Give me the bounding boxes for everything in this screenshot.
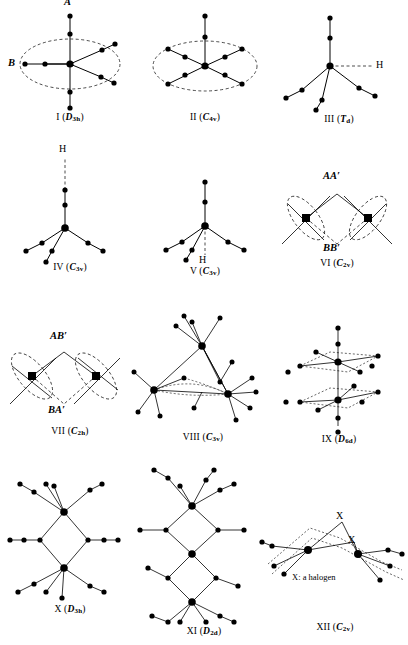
structure-V-diagram: [140, 160, 270, 260]
structure-VII: AB′ BA′ VII (C2h): [2, 318, 138, 443]
structure-VI-label-BB: BB′: [323, 242, 340, 253]
structure-III: H III (Td): [272, 4, 406, 122]
structure-I: A B I (D3h): [2, 4, 138, 122]
structure-I-caption: I (D3h): [2, 112, 138, 123]
structure-XI-numeral: XI: [187, 626, 197, 636]
structure-V-numeral: V: [190, 266, 197, 276]
structure-XI: XI (D2d): [134, 458, 274, 638]
structure-IX: IX (D6d): [272, 314, 406, 446]
structure-VII-label-BA: BA′: [48, 404, 65, 415]
structure-V: H V (C3v): [140, 160, 270, 270]
structure-IV-label-H: H: [59, 143, 66, 154]
structure-II-pg-sub: 4v: [209, 115, 216, 123]
structure-VI-caption: VI (C2v): [268, 258, 406, 269]
structure-VIII-caption: VIII (C3v): [132, 432, 274, 443]
structure-VIII-diagram: [132, 304, 274, 432]
structure-XI-diagram: [134, 458, 274, 626]
structure-XI-caption: XI (D2d): [134, 626, 274, 637]
structure-VII-pg-sub: 2h: [78, 429, 86, 437]
structure-VIII-pg-sub: 3v: [212, 435, 219, 443]
structure-VII-caption: VII (C2h): [2, 426, 138, 437]
structure-II-numeral: II: [190, 112, 197, 122]
structure-XI-pg-sub: 2d: [210, 629, 218, 637]
structure-I-label-A: A: [64, 0, 71, 7]
structure-VI-label-AA: AA′: [323, 170, 340, 181]
structure-V-label-H: H: [199, 254, 206, 265]
structure-X-numeral: X: [54, 604, 61, 614]
structure-IX-numeral: IX: [322, 434, 332, 444]
structure-III-pg-sub: d: [346, 117, 350, 125]
structure-X-diagram: [2, 470, 138, 602]
structure-X-caption: X (D3h): [2, 604, 138, 615]
structure-II: II (C4v): [140, 4, 270, 122]
structure-VII-label-AB: AB′: [50, 330, 67, 341]
structure-XII-diagram: [262, 508, 408, 598]
molecular-structures-figure: A B I (D3h) II (C4: [0, 0, 408, 645]
structure-X-pg-sub: 3h: [74, 607, 82, 615]
structure-II-caption: II (C4v): [140, 112, 270, 123]
structure-I-diagram: [2, 4, 138, 109]
structure-VIII: VIII (C3v): [132, 304, 274, 444]
structure-X: X (D3h): [2, 470, 138, 615]
structure-IV-pg-sub: 3v: [76, 265, 83, 273]
structure-IX-diagram: [272, 314, 406, 434]
structure-VI-pg-sub: 2v: [343, 261, 350, 269]
structure-VI-numeral: VI: [320, 258, 330, 268]
structure-III-label-H: H: [376, 59, 383, 70]
structure-III-caption: III (Td): [272, 114, 406, 125]
structure-I-pg-letter: D: [66, 112, 73, 122]
structure-I-pg-sub: 3h: [73, 115, 81, 123]
structure-XII-numeral: XII: [316, 622, 330, 632]
structure-VII-numeral: VII: [51, 426, 65, 436]
halogen-note: X: a halogen: [292, 572, 335, 582]
structure-XII-pg-sub: 2v: [343, 625, 350, 633]
structure-V-pg-sub: 3v: [209, 269, 216, 277]
structure-IV-diagram: [2, 145, 138, 257]
structure-IV-numeral: IV: [53, 262, 63, 272]
structure-IX-pg-sub: 6d: [345, 437, 353, 445]
structure-VI: AA′ BB′ VI (C2v): [268, 182, 406, 277]
structure-XII-label-X-top: X: [336, 510, 343, 521]
structure-I-numeral: I: [56, 112, 59, 122]
structure-II-diagram: [140, 4, 270, 109]
structure-XII-caption: XII (C2v): [262, 622, 408, 633]
structure-VII-diagram: [2, 318, 138, 426]
structure-V-caption: V (C3v): [140, 266, 270, 277]
structure-I-label-B: B: [8, 57, 15, 68]
structure-XII-label-X-inner: X: [348, 534, 355, 545]
structure-III-numeral: III: [324, 114, 334, 124]
structure-III-diagram: [272, 4, 406, 109]
structure-IV-caption: IV (C3v): [2, 262, 138, 273]
structure-IV: H IV (C3v): [2, 145, 138, 270]
structure-VIII-numeral: VIII: [183, 432, 200, 442]
structure-XII: X X X: a halogen XII (C2v): [262, 508, 408, 636]
structure-IX-caption: IX (D6d): [272, 434, 406, 445]
